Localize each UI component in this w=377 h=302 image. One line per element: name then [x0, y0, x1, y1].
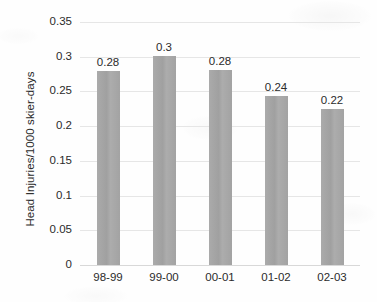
x-axis-tick-label: 02-03 [317, 272, 346, 284]
bar[interactable] [153, 56, 176, 265]
bar-data-label: 0.24 [265, 82, 287, 94]
x-axis-tick-label: 98-99 [93, 272, 122, 284]
bar[interactable] [97, 71, 120, 265]
y-axis-tick-label: 0.1 [22, 190, 72, 202]
y-axis-tick-label: 0.25 [22, 86, 72, 98]
bar-data-label: 0.3 [156, 42, 172, 54]
y-axis-tick-labels: 00.050.10.150.20.250.30.35 [22, 0, 72, 302]
bar-data-label: 0.22 [321, 95, 343, 107]
gridline [80, 265, 360, 266]
bar[interactable] [265, 96, 288, 265]
y-axis-tick-label: 0 [22, 259, 72, 271]
x-axis-tick-label: 01-02 [261, 272, 290, 284]
bar[interactable] [209, 70, 232, 265]
y-axis-tick-label: 0.05 [22, 225, 72, 237]
x-axis-tick-label: 00-01 [205, 272, 234, 284]
y-axis-tick-label: 0.3 [22, 51, 72, 63]
x-axis-tick-label: 99-00 [149, 272, 178, 284]
y-axis-tick-label: 0.35 [22, 16, 72, 28]
x-axis-tick-labels: 98-9999-0000-0101-0202-03 [80, 272, 360, 292]
bar-chart-figure: Head Injuries/1000 skier-days 00.050.10.… [0, 0, 377, 302]
bar[interactable] [321, 109, 344, 265]
bar-data-label: 0.28 [209, 56, 231, 68]
y-axis-tick-label: 0.15 [22, 155, 72, 167]
bar-data-label: 0.28 [97, 57, 119, 69]
y-axis-tick-label: 0.2 [22, 120, 72, 132]
